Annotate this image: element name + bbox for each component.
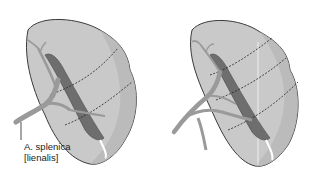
artery-label-line1: A. splenica (24, 141, 70, 152)
artery-label-line2: [lienalis] (24, 152, 58, 163)
spleen-figure-right (160, 0, 321, 180)
spleen-illustration-right (160, 0, 321, 180)
spleen-figure-left: A. splenica [lienalis] (0, 0, 160, 180)
